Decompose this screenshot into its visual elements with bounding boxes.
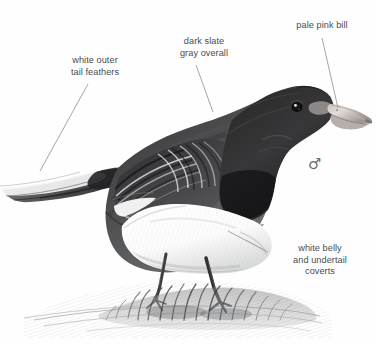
callout-dark-slate-gray-overall: dark slate gray overall: [152, 36, 256, 59]
callout-white-outer-tail-feathers: white outer tail feathers: [42, 55, 148, 78]
leader-white-outer-tail-feathers: [40, 84, 88, 171]
illustration-plate: white outer tail feathers dark slate gra…: [0, 0, 376, 344]
male-symbol: ♂: [308, 155, 324, 173]
bill-group: [327, 104, 372, 129]
callout-white-belly-and-undertail-coverts: white belly and undertail coverts: [268, 243, 372, 278]
leader-dark-slate-gray-overall: [196, 65, 213, 112]
callout-pale-pink-bill: pale pink bill: [272, 20, 372, 32]
head-group: [210, 80, 350, 230]
ground-group: [20, 278, 340, 340]
